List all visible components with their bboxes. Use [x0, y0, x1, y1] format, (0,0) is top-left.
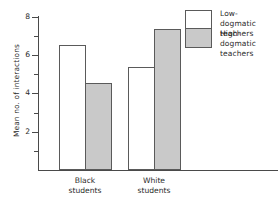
y-tick-minor-1 [34, 151, 39, 152]
x-group-label-white-students: White students [124, 176, 184, 195]
x-group-label-black-students: Black students [55, 176, 115, 195]
y-tick-major-2 [32, 132, 39, 133]
y-tick-label-2: 2 [10, 128, 30, 136]
y-tick-label-8: 8 [10, 13, 30, 21]
legend-swatch-high-dogmatic [186, 29, 211, 47]
bar-black-students-high-dogmatic [85, 83, 112, 170]
y-tick-label-6: 6 [10, 51, 30, 59]
y-tick-major-6 [32, 55, 39, 56]
bar-white-students-low-dogmatic [128, 67, 155, 170]
bar-black-students-low-dogmatic [59, 45, 86, 170]
legend-swatch-box [185, 10, 212, 48]
legend-label-high-dogmatic: High-dogmatic teachers [220, 29, 256, 58]
y-tick-minor-3 [34, 113, 39, 114]
bar-white-students-high-dogmatic [154, 29, 181, 170]
y-tick-label-4: 4 [10, 89, 30, 97]
y-tick-minor-7 [34, 36, 39, 37]
y-tick-minor-5 [34, 74, 39, 75]
legend-swatch-low-dogmatic [186, 11, 211, 29]
y-tick-major-4 [32, 93, 39, 94]
bar-chart: Mean no. of interactions 8 6 4 2 Black s… [0, 0, 279, 202]
y-tick-major-8 [32, 17, 39, 18]
x-axis-line [38, 170, 278, 171]
